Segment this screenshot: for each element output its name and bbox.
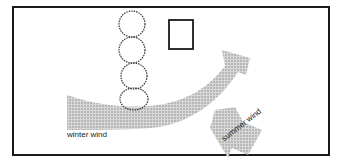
tree-icon <box>121 63 147 89</box>
building-icon <box>169 20 193 49</box>
wind-diagram <box>0 0 338 167</box>
tree-row <box>119 11 148 110</box>
winter-wind-label: winter wind <box>67 130 107 139</box>
tree-icon <box>119 37 145 63</box>
tree-icon <box>119 11 145 37</box>
